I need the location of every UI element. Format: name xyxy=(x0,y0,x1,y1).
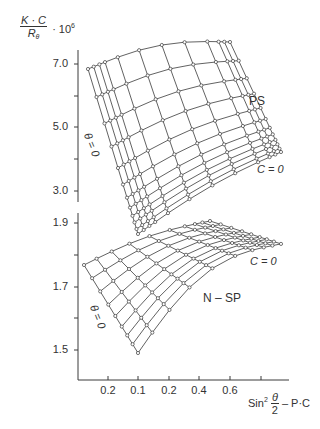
ps-label: PS xyxy=(249,94,265,108)
y-axis-label: K · C Rθ · 106 xyxy=(20,14,75,43)
x-axis-label: Sin2 θ 2 – P·C xyxy=(248,391,310,417)
y-label-denominator: R xyxy=(28,27,36,39)
x-tick-label: 0.2 xyxy=(154,384,184,396)
y-tick-label: 3.0 xyxy=(38,184,68,196)
x-tick-label: 0.2 xyxy=(93,384,123,396)
nsp-surface-grid xyxy=(82,219,282,354)
x-label-prefix: Sin xyxy=(248,397,264,409)
x-label-denominator: 2 xyxy=(271,404,279,417)
y-tick-label: 1.9 xyxy=(38,216,68,228)
y-tick-label: 1.5 xyxy=(38,343,68,355)
y-tick-label: 1.7 xyxy=(38,280,68,292)
y-tick-label: 7.0 xyxy=(38,57,68,69)
y-label-subscript: θ xyxy=(36,33,40,40)
nsp-label: N – SP xyxy=(203,291,241,305)
y-label-exponent: 6 xyxy=(71,22,75,29)
x-label-exponent: 2 xyxy=(264,396,268,403)
ps-surface-grid xyxy=(86,40,282,236)
x-tick-label: 0.1 xyxy=(123,384,153,396)
y-tick-label: 5.0 xyxy=(38,120,68,132)
x-label-numerator: θ xyxy=(271,391,279,404)
y-label-numerator: K · C xyxy=(20,14,47,27)
c0-lower-label: C = 0 xyxy=(250,255,277,267)
c0-upper-label: C = 0 xyxy=(257,163,284,175)
y-label-multiplier: · 10 xyxy=(52,23,71,35)
x-label-suffix: – P·C xyxy=(282,397,310,409)
x-tick-label: 0.4 xyxy=(184,384,214,396)
x-tick-label: 0.6 xyxy=(215,384,245,396)
